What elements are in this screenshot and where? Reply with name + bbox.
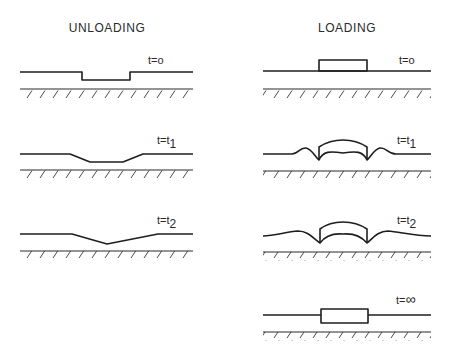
panel-label: t=t1: [157, 134, 177, 151]
panel-label: t=o: [399, 54, 415, 66]
ground-hatch: [20, 89, 193, 98]
load-block-top: [320, 222, 367, 243]
loading-panel-t2: t=t2: [263, 214, 431, 261]
ground-hatch: [20, 170, 193, 179]
ground-hatch: [263, 171, 431, 180]
ground-hatch: [263, 252, 431, 261]
ground-hatch: [263, 332, 431, 341]
loading-panel-t1: t=t1: [263, 134, 431, 180]
panel-label: t=t1: [397, 134, 417, 151]
ground-hatch: [263, 89, 431, 98]
loading-title: LOADING: [318, 21, 376, 35]
surface-profile: [20, 234, 193, 244]
load-block: [319, 60, 367, 71]
unloading-panel-t2: t=t2: [20, 214, 193, 260]
loading-column: LOADING t=o t=t1 t=t2 t=∞: [263, 21, 431, 341]
loading-panel-t0: t=o: [263, 54, 431, 98]
unloading-panel-t1: t=t1: [20, 134, 193, 179]
panel-label: t=∞: [396, 291, 415, 307]
panel-label: t=t2: [397, 214, 417, 231]
unloading-column: UNLOADING t=o t=t1 t=t2: [20, 21, 193, 260]
load-block-top: [319, 140, 367, 160]
diagram-canvas: UNLOADING t=o t=t1 t=t2 LOADING t=o: [0, 0, 452, 360]
surface-profile: [263, 148, 431, 160]
unloading-panel-t0: t=o: [20, 54, 193, 98]
surface-profile: [20, 154, 193, 162]
ground-hatch: [20, 251, 193, 260]
load-block: [321, 309, 368, 323]
loading-panel-tinf: t=∞: [263, 291, 431, 341]
unloading-title: UNLOADING: [69, 21, 146, 35]
surface-profile: [263, 231, 431, 243]
surface-profile: [20, 72, 193, 80]
panel-label: t=o: [148, 54, 164, 66]
panel-label: t=t2: [157, 214, 177, 231]
